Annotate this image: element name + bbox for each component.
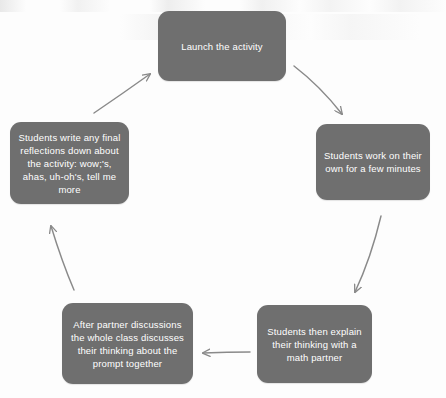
node-reflect-label: Students write any final reflections dow…	[18, 131, 121, 196]
node-own-work-label: Students work on their own for a few min…	[324, 149, 422, 175]
arrow-launch-to-own-work	[294, 66, 342, 114]
diagram-canvas: Launch the activity Students work on the…	[0, 0, 446, 398]
node-students-write-final-reflections[interactable]: Students write any final reflections dow…	[10, 122, 129, 204]
node-students-explain-with-math-partner[interactable]: Students then explain their thinking wit…	[257, 305, 372, 383]
node-students-work-on-their-own[interactable]: Students work on their own for a few min…	[316, 124, 430, 200]
arrow-explain-to-whole-class	[203, 352, 250, 353]
node-whole-class-discussion[interactable]: After partner discussions the whole clas…	[62, 303, 193, 384]
arrow-own-work-to-explain	[355, 216, 381, 292]
arrow-reflect-to-launch	[94, 74, 150, 113]
arrow-whole-class-to-reflect	[51, 226, 74, 290]
node-explain-label: Students then explain their thinking wit…	[265, 325, 364, 364]
node-launch-label: Launch the activity	[181, 40, 263, 53]
node-whole-class-label: After partner discussions the whole clas…	[70, 318, 185, 370]
node-launch-the-activity[interactable]: Launch the activity	[158, 11, 286, 81]
